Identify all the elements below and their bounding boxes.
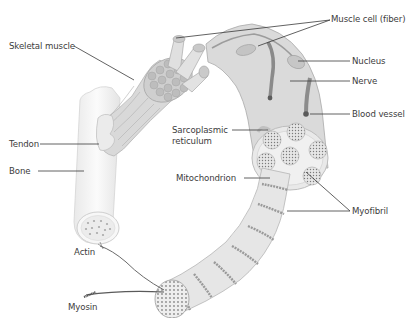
label-sarcoplasmic-reticulum-line1: Sarcoplasmic [172,125,228,135]
label-skeletal-muscle: Skeletal muscle [9,41,75,51]
muscle-structure-diagram: Muscle cell (fiber) Skeletal muscle Nucl… [0,0,409,318]
label-nucleus: Nucleus [352,56,386,66]
label-actin: Actin [74,247,95,257]
label-myosin: Myosin [68,302,97,312]
filaments-illustration [84,242,164,297]
label-tendon: Tendon [9,139,39,149]
label-blood-vessel: Blood vessel [352,109,405,119]
label-muscle-cell: Muscle cell (fiber) [331,14,405,24]
label-nerve: Nerve [352,76,377,86]
label-bone: Bone [9,166,31,176]
muscle-fiber-illustration [206,24,328,190]
label-mitochondrion: Mitochondrion [176,173,236,183]
bone-illustration [74,87,120,244]
myofibril-illustration [155,168,290,318]
label-myofibril: Myofibril [352,206,388,216]
label-sarcoplasmic-reticulum-line2: reticulum [172,136,212,146]
